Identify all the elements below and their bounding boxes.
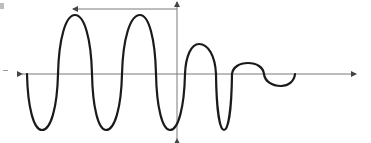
waveform-diagram [0,0,371,143]
waveform-curve [27,15,295,130]
